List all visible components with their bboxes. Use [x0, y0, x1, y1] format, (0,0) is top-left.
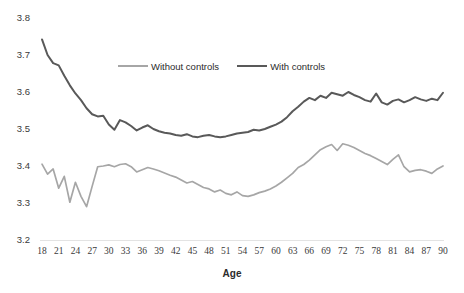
series-line-with-controls	[42, 39, 443, 137]
legend-item-with-controls: With controls	[237, 61, 325, 72]
legend-swatch-icon-with-controls	[237, 65, 267, 67]
chart-legend: Without controls With controls	[118, 58, 325, 74]
legend-label-without-controls: Without controls	[151, 61, 219, 72]
legend-label-with-controls: With controls	[270, 61, 325, 72]
x-axis-title: Age	[0, 268, 464, 279]
legend-item-without-controls: Without controls	[118, 61, 219, 72]
series-line-without-controls	[42, 144, 443, 207]
plot-area	[0, 0, 464, 293]
line-chart: 3.83.73.63.53.43.33.2 182124273033363942…	[0, 0, 464, 293]
legend-swatch-icon-without-controls	[118, 65, 148, 67]
